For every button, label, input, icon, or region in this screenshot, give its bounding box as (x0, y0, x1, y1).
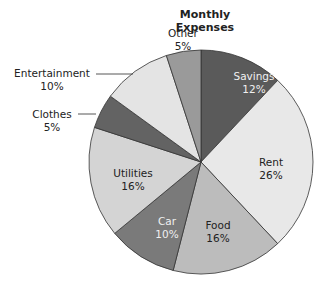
label-car: Car10% (147, 215, 187, 241)
label-rent: Rent26% (246, 156, 296, 182)
pie-chart: Monthly Expenses Savings12% Rent26% Food… (0, 0, 333, 287)
label-entertainment: Entertainment10% (12, 67, 92, 93)
label-clothes: Clothes5% (28, 108, 76, 134)
label-other: Other5% (163, 27, 203, 53)
label-utilities: Utilities16% (108, 167, 158, 193)
label-food: Food16% (193, 219, 243, 245)
label-savings: Savings12% (226, 70, 282, 96)
